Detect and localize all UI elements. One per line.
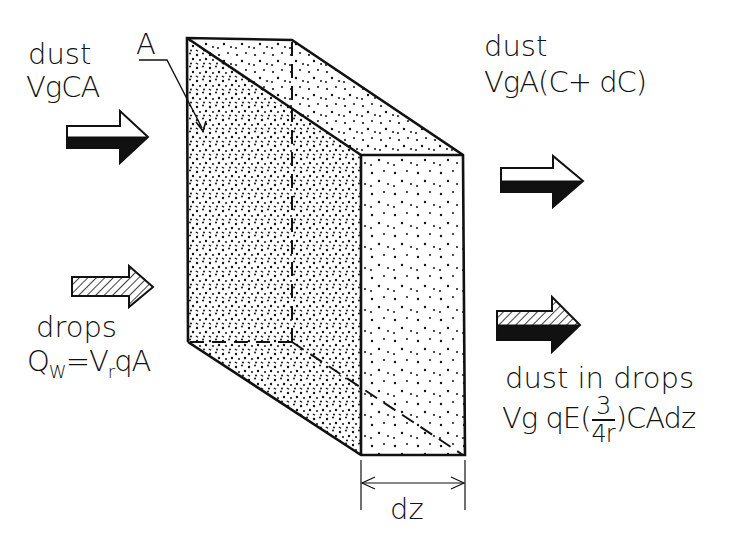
drops-in-arrow [72,266,153,307]
flow-v-subscript: r [108,361,114,382]
capture-prefix: Vg qE( [502,401,591,435]
dust-in-title: dust [28,40,91,69]
fraction-numerator: 3 [592,394,615,421]
dust-in-arrow [67,111,148,163]
thickness-label: dz [390,495,424,524]
area-label: A [136,30,156,59]
drops-in-formula: QW=VrqA [27,347,150,376]
dust-in-drops-title: dust in drops [505,364,694,393]
flow-q-subscript: W [49,361,66,382]
dust-out-title: dust [484,32,547,61]
capture-fraction: 34r [592,394,615,446]
slab-front-face [361,155,465,455]
flow-q: Q [27,344,49,378]
drops-in-title: drops [36,313,117,342]
fraction-denominator: 4r [592,421,615,446]
flow-qa: qA [114,344,150,378]
dust-out-arrow [501,156,583,207]
slab-box [187,38,465,455]
dust-out-formula: VgA(C+ dC) [484,68,646,97]
dust-in-formula: VgCA [26,73,99,102]
dust-in-drops-formula: Vg qE(34r)CAdz [502,394,695,446]
flow-eq-v: =V [66,344,108,378]
capture-suffix: )CAdz [616,401,696,435]
dust-in-drops-arrow [497,297,580,352]
